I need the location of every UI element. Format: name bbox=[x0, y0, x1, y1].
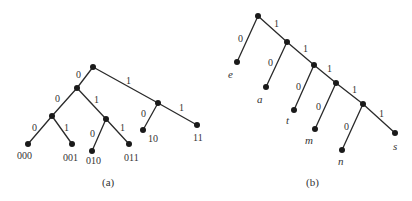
edge-label-a: 1 bbox=[126, 75, 131, 86]
node-a-1 bbox=[155, 100, 161, 106]
edge-label-a: 0 bbox=[55, 93, 60, 104]
edge-label-a: 1 bbox=[120, 122, 125, 133]
leaf-b-t bbox=[291, 107, 297, 113]
leaf-a-10 bbox=[140, 127, 146, 133]
edge-b-spine-3 bbox=[314, 65, 336, 83]
leaf-b-m bbox=[312, 126, 318, 132]
edge-label-b: 1 bbox=[303, 43, 308, 54]
edge-label-b: 0 bbox=[296, 81, 301, 92]
edge-label-b: 0 bbox=[268, 57, 273, 68]
edge-label-a: 1 bbox=[179, 102, 184, 113]
leaf-label-10: 10 bbox=[148, 133, 158, 144]
leaf-label-000: 000 bbox=[17, 150, 32, 161]
leaf-label-11: 11 bbox=[193, 132, 203, 143]
edge-b-spine-1 bbox=[258, 16, 287, 42]
edge-label-b: 0 bbox=[316, 101, 321, 112]
node-a-root bbox=[90, 64, 96, 70]
edge-label-a: 0 bbox=[76, 69, 81, 80]
leaf-b-n bbox=[339, 147, 345, 153]
edge-a-1-11 bbox=[158, 103, 197, 125]
edge-label-b: 1 bbox=[352, 84, 357, 95]
edge-label-b: 0 bbox=[238, 33, 243, 44]
node-b-1 bbox=[284, 39, 290, 45]
leaf-a-000 bbox=[25, 141, 31, 147]
edge-label-a: 0 bbox=[32, 122, 37, 133]
edge-b-spine-4 bbox=[336, 83, 363, 104]
edge-label-a: 0 bbox=[141, 108, 146, 119]
prefix-code-trees: 0 1 0 1 0 1 0 1 0 1 000 001 010 011 10 1… bbox=[0, 0, 412, 201]
leaf-label-s: s bbox=[393, 140, 397, 152]
leaf-b-a bbox=[263, 84, 269, 90]
edge-label-b: 1 bbox=[274, 18, 279, 29]
node-b-4 bbox=[360, 101, 366, 107]
edge-a-00-001 bbox=[52, 116, 72, 144]
node-a-00 bbox=[49, 113, 55, 119]
leaf-label-a: a bbox=[257, 93, 263, 105]
leaf-label-e: e bbox=[228, 68, 233, 80]
leaf-label-t: t bbox=[286, 114, 290, 126]
edge-b-spine-2 bbox=[287, 42, 314, 65]
node-b-root bbox=[255, 13, 261, 19]
leaf-label-m: m bbox=[305, 134, 313, 146]
edge-label-a: 1 bbox=[64, 122, 69, 133]
node-a-0 bbox=[74, 85, 80, 91]
node-b-3 bbox=[333, 80, 339, 86]
edge-a-0-01 bbox=[77, 88, 106, 119]
node-a-01 bbox=[103, 116, 109, 122]
caption-b: (b) bbox=[306, 176, 319, 189]
caption-a: (a) bbox=[102, 176, 115, 189]
tree-b: 0 1 0 1 0 1 0 1 0 1 e a t m n s (b) bbox=[228, 13, 398, 189]
leaf-b-s bbox=[392, 130, 398, 136]
leaf-a-010 bbox=[89, 148, 95, 154]
leaf-label-011: 011 bbox=[124, 152, 139, 163]
edge-label-b: 1 bbox=[327, 63, 332, 74]
edge-label-b: 1 bbox=[379, 108, 384, 119]
tree-a: 0 1 0 1 0 1 0 1 0 1 000 001 010 011 10 1… bbox=[17, 64, 203, 189]
node-b-2 bbox=[311, 62, 317, 68]
leaf-a-001 bbox=[69, 141, 75, 147]
leaf-a-011 bbox=[126, 141, 132, 147]
edge-label-b: 0 bbox=[344, 121, 349, 132]
leaf-b-e bbox=[234, 59, 240, 65]
leaf-label-001: 001 bbox=[63, 152, 78, 163]
leaf-label-n: n bbox=[338, 155, 344, 167]
edge-a-01-011 bbox=[106, 119, 129, 144]
leaf-a-11 bbox=[194, 122, 200, 128]
edge-label-a: 0 bbox=[90, 128, 95, 139]
leaf-label-010: 010 bbox=[86, 155, 101, 166]
edge-label-a: 1 bbox=[94, 94, 99, 105]
